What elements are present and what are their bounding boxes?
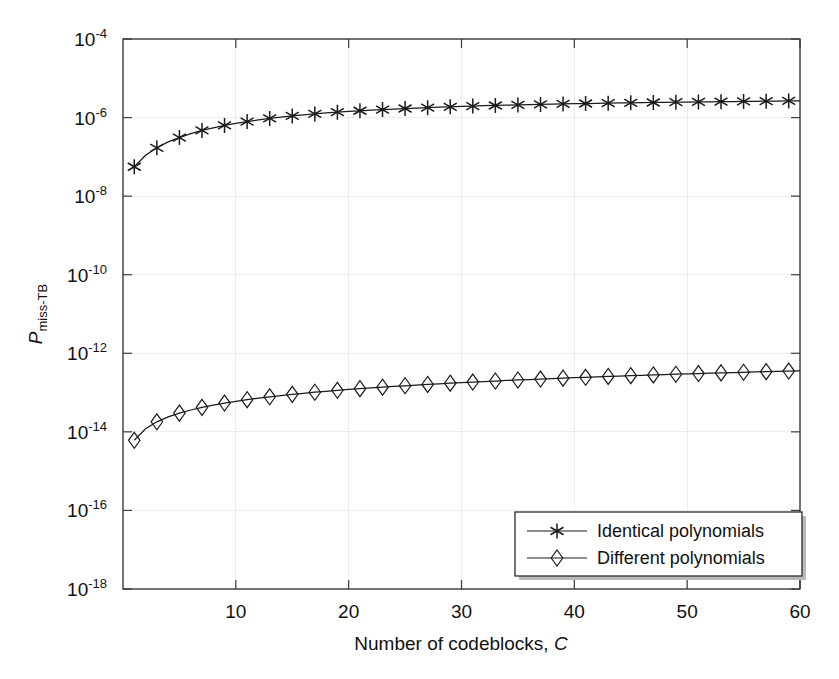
series-2 xyxy=(129,363,800,448)
y-tick-label: 10-6 xyxy=(74,105,107,129)
legend: Identical polynomialsDifferent polynomia… xyxy=(515,512,806,580)
y-tick-label: 10-14 xyxy=(67,419,107,443)
data-series xyxy=(128,93,800,448)
y-tick-label: 10-12 xyxy=(67,340,107,364)
marker-star xyxy=(173,130,186,145)
marker-star xyxy=(218,118,231,133)
series-line xyxy=(134,101,800,167)
marker-diamond xyxy=(129,432,141,448)
marker-star xyxy=(195,123,208,138)
y-axis-title: Pmiss-TB xyxy=(25,284,50,344)
marker-star xyxy=(150,140,163,155)
x-tick-label: 30 xyxy=(451,601,472,622)
y-tick-label: 10-16 xyxy=(67,497,107,521)
x-axis-title: Number of codeblocks, C xyxy=(354,633,568,654)
x-axis-tick-labels: 102030405060 xyxy=(225,601,810,622)
y-tick-label: 10-8 xyxy=(74,183,107,207)
x-tick-label: 60 xyxy=(789,601,810,622)
legend-label: Different polynomials xyxy=(597,548,765,568)
log-line-chart: 10-410-610-810-1010-1210-1410-1610-18 10… xyxy=(0,0,839,679)
x-tick-label: 40 xyxy=(564,601,585,622)
x-tick-label: 20 xyxy=(338,601,359,622)
y-tick-label: 10-10 xyxy=(67,262,107,286)
y-tick-label: 10-18 xyxy=(67,576,107,600)
chart-figure: 10-410-610-810-1010-1210-1410-1610-18 10… xyxy=(0,0,839,679)
marker-star xyxy=(241,114,254,129)
svg-text:Pmiss-TB: Pmiss-TB xyxy=(25,284,50,344)
series-1 xyxy=(128,93,800,174)
y-axis-tick-labels: 10-410-610-810-1010-1210-1410-1610-18 xyxy=(67,26,107,600)
x-tick-label: 10 xyxy=(225,601,246,622)
x-tick-label: 50 xyxy=(677,601,698,622)
y-tick-label: 10-4 xyxy=(74,26,107,50)
legend-label: Identical polynomials xyxy=(597,521,764,541)
